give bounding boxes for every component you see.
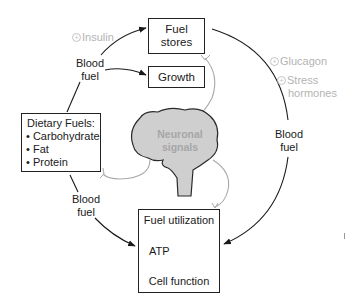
hormones-text: hormones: [277, 87, 337, 100]
signal-brain-to-dietary: [103, 160, 150, 179]
arrow-blood-fuel-to-utilization-left: [95, 218, 135, 246]
blood-fuel-bottom-line2: fuel: [70, 206, 102, 219]
plus-icon: +: [277, 76, 286, 85]
fuel-stores-line1: Fuel: [149, 23, 204, 36]
dietary-fuels-title: Dietary Fuels:: [22, 117, 100, 130]
brain-label: Neuronal signals: [150, 128, 210, 154]
stress-hormones-label: +Stress hormones: [277, 74, 337, 100]
blood-fuel-top-line2: fuel: [75, 70, 105, 83]
dietary-item-fat: • Fat: [22, 143, 100, 156]
signal-tick-fuel-stores: [201, 55, 210, 60]
line-dietary-to-blood-fuel: [67, 82, 80, 112]
glucagon-text: Glucagon: [280, 55, 327, 67]
arrow-blood-to-growth: [105, 69, 146, 75]
cell-function-label: Cell function: [139, 275, 219, 288]
plus-icon: +: [270, 57, 279, 66]
blood-fuel-right-line2: fuel: [273, 141, 305, 154]
dietary-item-carbohydrate: • Carbohydrate: [22, 130, 100, 143]
arrow-blood-fuel-to-utilization: [224, 157, 288, 244]
plus-icon: +: [72, 33, 81, 42]
brain-label-line2: signals: [150, 141, 210, 154]
fuel-utilization-node: Fuel utilization ATP Cell function: [138, 209, 220, 293]
blood-fuel-right-line1: Blood: [273, 128, 305, 141]
glucagon-label: +Glucagon: [270, 55, 327, 68]
insulin-label: +Insulin: [72, 31, 114, 44]
blood-fuel-top-line1: Blood: [75, 57, 105, 70]
blood-fuel-label-bottom: Blood fuel: [70, 193, 102, 219]
dietary-item-protein: • Protein: [22, 156, 100, 169]
growth-node: Growth: [148, 66, 205, 88]
blood-fuel-bottom-line1: Blood: [70, 193, 102, 206]
stress-text: Stress: [287, 74, 318, 86]
fuel-utilization-title: Fuel utilization: [139, 214, 219, 227]
blood-fuel-label-right: Blood fuel: [273, 128, 305, 154]
fuel-stores-node: Fuel stores: [148, 18, 205, 54]
signal-brain-to-utilization: [213, 160, 229, 207]
fuel-stores-line2: stores: [149, 36, 204, 49]
blood-fuel-label-top: Blood fuel: [75, 57, 105, 83]
growth-label: Growth: [149, 71, 204, 84]
brain-label-line1: Neuronal: [150, 128, 210, 141]
dietary-fuels-node: Dietary Fuels: • Carbohydrate • Fat • Pr…: [21, 113, 101, 172]
insulin-text: Insulin: [82, 31, 114, 43]
stray-mark: [344, 233, 345, 239]
atp-label: ATP: [149, 245, 170, 258]
line-dietary-to-blood-fuel-bottom: [70, 175, 78, 192]
